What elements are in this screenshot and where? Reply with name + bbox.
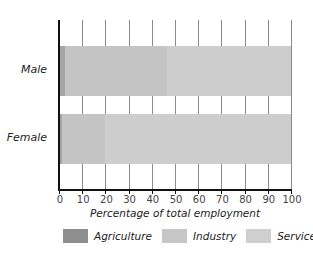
tick-label: 30 bbox=[123, 194, 136, 205]
segment-industry bbox=[62, 114, 105, 164]
category-label: Female bbox=[7, 131, 47, 144]
segment-services bbox=[167, 46, 291, 96]
plot-area bbox=[59, 20, 291, 189]
y-axis bbox=[58, 20, 60, 190]
segment-industry bbox=[65, 46, 167, 96]
tick-label: 100 bbox=[282, 194, 301, 205]
tick-label: 40 bbox=[146, 194, 159, 205]
tick-label: 90 bbox=[262, 194, 275, 205]
legend-label: Agriculture bbox=[94, 230, 152, 242]
bar-female bbox=[59, 114, 291, 164]
legend-item-services: Services bbox=[246, 229, 313, 243]
legend-label: Industry bbox=[193, 230, 236, 242]
legend-swatch bbox=[63, 229, 88, 243]
segment-services bbox=[105, 114, 291, 164]
tick-label: 60 bbox=[193, 194, 206, 205]
legend-swatch bbox=[162, 229, 187, 243]
gridline bbox=[291, 20, 292, 189]
tick-label: 80 bbox=[239, 194, 252, 205]
legend-item-agriculture: Agriculture bbox=[63, 229, 152, 243]
x-axis-label: Percentage of total employment bbox=[0, 207, 313, 219]
tick-label: 50 bbox=[170, 194, 183, 205]
legend-label: Services bbox=[277, 230, 313, 242]
legend-item-industry: Industry bbox=[162, 229, 236, 243]
tick-label: 10 bbox=[77, 194, 90, 205]
bar-male bbox=[59, 46, 291, 96]
legend: AgricultureIndustryServices bbox=[63, 229, 313, 243]
tick-label: 0 bbox=[57, 194, 63, 205]
tick-label: 20 bbox=[100, 194, 113, 205]
legend-swatch bbox=[246, 229, 271, 243]
category-label: Male bbox=[21, 63, 47, 76]
tick-label: 70 bbox=[216, 194, 229, 205]
